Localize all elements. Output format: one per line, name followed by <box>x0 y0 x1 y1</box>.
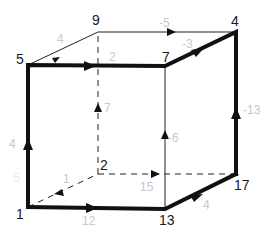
weight-label-faint-left: 5 <box>13 171 20 185</box>
arrowhead-1-5 <box>23 138 33 150</box>
arrowhead-13-17 <box>190 194 203 202</box>
weight-label-1-5: 4 <box>9 137 16 151</box>
arrowhead-17-4 <box>231 107 241 119</box>
weight-label-13-7: -6 <box>168 131 179 145</box>
weight-label-1-2: 1 <box>63 172 70 186</box>
arrowhead-2-9 <box>94 103 102 112</box>
arrowhead-1-13 <box>86 203 98 213</box>
vertex-label-2: 2 <box>100 157 108 173</box>
vertex-label-7: 7 <box>162 49 170 65</box>
bold-path-upper <box>28 32 236 207</box>
vertex-label-17: 17 <box>234 177 250 193</box>
weight-label-7-4: -3 <box>182 37 193 51</box>
weight-label-5-7: 2 <box>109 50 116 64</box>
weight-label-2-17: 15 <box>140 180 154 194</box>
arrowhead-1-2 <box>54 189 64 196</box>
vertex-label-5: 5 <box>16 51 24 67</box>
weight-label-1-13: 12 <box>82 214 96 228</box>
arrowhead-5-9 <box>52 57 60 63</box>
weight-label-2-9: 7 <box>104 101 111 115</box>
vertex-label-9: 9 <box>92 12 100 28</box>
weight-label-17-4: -13 <box>243 103 261 117</box>
vertex-label-4: 4 <box>231 13 239 29</box>
weight-label-9-4: -5 <box>159 16 170 30</box>
vertex-label-1: 1 <box>16 206 24 222</box>
weight-label-5-9: 4 <box>57 32 64 46</box>
arrowhead-2-17 <box>151 170 160 178</box>
arrowhead-7-4 <box>191 48 204 57</box>
weight-label-13-17: 4 <box>203 198 210 212</box>
cube-graph-diagram: 9 4 5 7 2 1 13 17 4 -5 2 -3 7 -6 -13 4 5… <box>0 0 276 238</box>
vertex-label-13: 13 <box>159 212 175 228</box>
arrowhead-5-7 <box>84 61 96 71</box>
